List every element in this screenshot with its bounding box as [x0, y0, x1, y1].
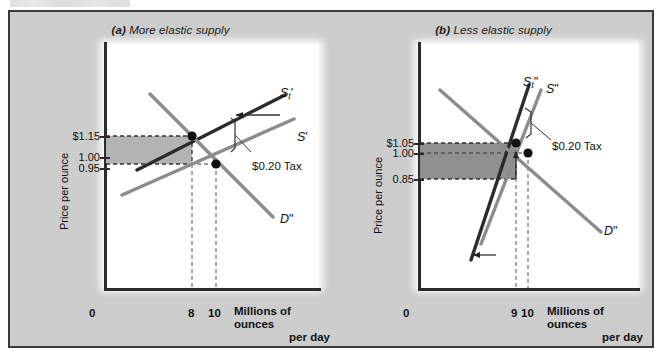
panel-b-x-origin: 0: [403, 307, 409, 319]
panel-a-xtick-10: 10: [208, 307, 221, 319]
panel-b: (b) Less elastic supply Price per ounce: [333, 12, 654, 348]
panel-b-xtick-9: 9: [511, 307, 517, 319]
panel-b-equilibrium-dot-taxed: [511, 138, 520, 147]
figure-container: (a) More elastic supply Price per ounce: [0, 0, 662, 362]
panel-a-supply-curve: [122, 119, 294, 195]
panel-b-label-demand: D": [604, 224, 617, 238]
panel-a-tax-annotation: $0.20 Tax: [252, 160, 302, 172]
panel-a-xtick-8: 8: [188, 307, 194, 319]
panel-a-curves-overlay: [8, 12, 333, 348]
panel-a-equilibrium-dot-taxed: [187, 131, 196, 140]
panel-b-label-supply: S": [546, 82, 559, 96]
panel-b-x-caption-line2: per day: [547, 331, 643, 344]
panel-b-supply-tax-curve: [471, 85, 529, 260]
panel-b-xtick-10: 10: [521, 307, 534, 319]
panel-a: (a) More elastic supply Price per ounce: [8, 12, 333, 348]
panel-b-tickmark-105: [414, 143, 424, 145]
panel-a-label-supply: S': [297, 130, 308, 144]
panel-a-x-axis-caption: Millions of ounces per day: [234, 305, 330, 344]
panel-a-equilibrium-dot-untaxed: [211, 159, 220, 168]
panel-b-tickmark-100: [414, 153, 424, 155]
panel-b-x-axis-caption: Millions of ounces per day: [547, 305, 643, 344]
panel-a-tickmark-100: [100, 157, 110, 159]
panel-b-equilibrium-dot-untaxed: [523, 148, 532, 157]
panel-b-shade-outline: [420, 143, 516, 179]
panel-a-tickmark-095: [100, 168, 110, 170]
panel-b-label-supply-tax: St": [523, 75, 538, 90]
panel-a-x-caption-line2: per day: [234, 331, 330, 344]
panel-b-tickmark-085: [414, 179, 424, 181]
panel-b-tax-annotation: $0.20 Tax: [552, 140, 602, 152]
panel-b-ytick-100: 1.00: [374, 147, 414, 159]
panel-a-x-origin: 0: [89, 307, 95, 319]
panel-b-tax-leader-line: [531, 123, 551, 140]
panel-a-tickmark-115: [100, 136, 110, 138]
panel-a-label-demand: D": [280, 212, 293, 226]
panel-b-x-caption-line1: Millions of ounces: [547, 305, 604, 330]
cutoff-text-sliver: [10, 0, 130, 7]
panel-a-ytick-115: $1.15: [60, 130, 100, 142]
panel-a-x-caption-line1: Millions of ounces: [234, 305, 291, 330]
panel-a-label-supply-tax: St': [280, 86, 293, 101]
panel-b-supply-curve: [481, 90, 541, 244]
panel-a-ytick-095: 0.95: [60, 162, 100, 174]
panel-b-ytick-085: 0.85: [374, 173, 414, 185]
